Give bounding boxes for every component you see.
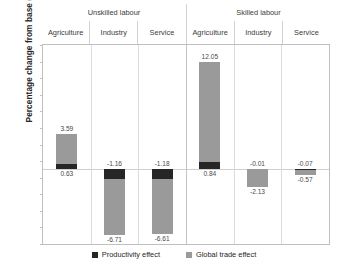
- bar-label-productivity-effect: -0.07: [298, 160, 313, 167]
- chart-legend: Productivity effect Global trade effect: [0, 250, 348, 259]
- bar-segment-global-trade-effect[interactable]: [104, 179, 125, 235]
- category-header-unskilled-industry: Industry: [89, 21, 137, 44]
- bar-segment-global-trade-effect[interactable]: [56, 134, 77, 164]
- bar-label-global-trade-effect: -2.13: [250, 188, 265, 195]
- category-header-unskilled-agriculture: Agriculture: [42, 21, 89, 44]
- legend-item-global-trade-effect: Global trade effect: [186, 250, 256, 259]
- legend-item-productivity-effect: Productivity effect: [92, 250, 160, 259]
- bar-segment-productivity-effect[interactable]: [152, 169, 173, 179]
- y-tick-mark: [40, 244, 43, 245]
- bar-label-global-trade-effect: -6.61: [155, 235, 170, 242]
- bar-segment-global-trade-effect[interactable]: [295, 170, 316, 175]
- bar-label-productivity-effect: 0.63: [60, 170, 73, 177]
- group-header-skilled: Skilled labour: [186, 4, 330, 21]
- bar-segment-global-trade-effect[interactable]: [247, 169, 268, 187]
- category-header-band: Unskilled labour Skilled labour Agricult…: [42, 4, 330, 44]
- plot-area: 15131197531-1-3-5-7-93.590.63-6.71-1.16-…: [42, 44, 330, 245]
- legend-label-global-trade-effect: Global trade effect: [196, 250, 256, 259]
- bar-group[interactable]: -2.13-0.01: [234, 45, 282, 244]
- bar-group[interactable]: -6.71-1.16: [91, 45, 139, 244]
- bar-segment-global-trade-effect[interactable]: [199, 62, 220, 162]
- bar-group[interactable]: 3.590.63: [43, 45, 91, 244]
- category-header-row: Agriculture Industry Service Agriculture…: [42, 21, 330, 44]
- group-header-unskilled: Unskilled labour: [42, 4, 186, 21]
- bar-group[interactable]: -0.57-0.07: [281, 45, 329, 244]
- bar-segment-productivity-effect[interactable]: [104, 169, 125, 179]
- bar-segment-productivity-effect[interactable]: [56, 164, 77, 169]
- legend-label-productivity-effect: Productivity effect: [102, 250, 160, 259]
- bar-label-global-trade-effect: -0.57: [298, 176, 313, 183]
- bar-group[interactable]: -6.61-1.18: [138, 45, 186, 244]
- y-axis-title: Percentage change from base (%): [24, 0, 34, 140]
- bar-label-global-trade-effect: -6.71: [107, 236, 122, 243]
- bar-label-global-trade-effect: 12.05: [202, 53, 219, 60]
- bar-label-productivity-effect: -0.01: [250, 160, 265, 167]
- category-header-skilled-agriculture: Agriculture: [186, 21, 234, 44]
- category-header-skilled-industry: Industry: [234, 21, 282, 44]
- bar-label-productivity-effect: -1.16: [107, 160, 122, 167]
- legend-swatch-productivity-effect: [92, 252, 98, 258]
- bar-label-global-trade-effect: 3.59: [60, 125, 73, 132]
- group-header-row: Unskilled labour Skilled labour: [42, 4, 330, 21]
- bar-segment-global-trade-effect[interactable]: [152, 179, 173, 234]
- bar-segment-productivity-effect[interactable]: [199, 162, 220, 169]
- category-header-skilled-service: Service: [282, 21, 330, 44]
- stacked-bar-chart: Percentage change from base (%) Unskille…: [0, 0, 348, 272]
- bar-label-productivity-effect: -1.18: [155, 160, 170, 167]
- legend-swatch-global-trade-effect: [186, 252, 192, 258]
- bar-group[interactable]: 12.050.84: [186, 45, 234, 244]
- category-header-unskilled-service: Service: [137, 21, 185, 44]
- bar-label-productivity-effect: 0.84: [203, 170, 216, 177]
